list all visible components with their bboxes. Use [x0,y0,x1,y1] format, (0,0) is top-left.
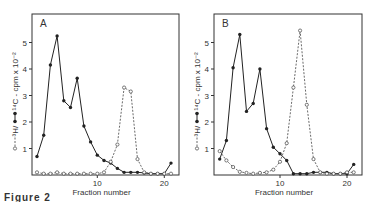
open-data-point [116,143,119,146]
x-tick-label: 20 [160,179,169,188]
figure-chart: A123451020Fraction number³H/¹⁴C - cpm x … [0,0,368,202]
filled-data-point [136,171,139,174]
y-tick-label: 3 [23,92,28,101]
open-data-point [49,172,52,175]
filled-data-point [298,172,301,175]
filled-data-point [252,102,255,105]
panel-label: B [222,18,229,29]
y-tick-label: 2 [205,118,210,127]
solid-series-line [37,36,171,174]
filled-data-point [225,139,228,142]
open-data-point [156,172,159,175]
open-data-point [218,150,221,153]
open-data-point [225,159,228,162]
y-axis-label: ³H/¹⁴C - cpm x 10⁻² [11,52,20,150]
plot-frame [214,14,362,175]
open-data-point [143,171,146,174]
open-data-point [285,142,288,145]
filled-data-point [69,106,72,109]
open-data-point [265,171,268,174]
filled-data-point [292,172,295,175]
open-data-point [89,172,92,175]
filled-data-point [169,161,172,164]
open-data-point [96,172,99,175]
open-data-point [252,172,255,175]
open-data-point [82,172,85,175]
filled-data-point [55,34,58,37]
filled-data-point [122,171,125,174]
open-data-point [292,86,295,89]
open-data-point [129,90,132,93]
open-data-point [339,172,342,175]
open-data-point [102,171,105,174]
x-axis-label: Fraction number [255,188,314,197]
y-tick-label: 5 [205,39,210,48]
panel-label: A [40,18,47,29]
open-data-point [42,172,45,175]
filled-data-point [96,153,99,156]
y-label-3h: ³H/ [193,125,202,136]
open-data-point [272,168,275,171]
panel-b: B123451020Fraction number³H/¹⁴C - cpm x … [193,14,362,197]
open-data-point [76,172,79,175]
open-data-point [319,171,322,174]
open-data-point [278,160,281,163]
open-data-point [56,171,59,174]
figure-caption: Figure 2 [4,192,51,202]
y-label-14c: ¹⁴C - cpm x 10⁻² [193,52,202,110]
filled-data-point [272,145,275,148]
x-tick-label: 10 [276,179,285,188]
filled-data-point [129,171,132,174]
filled-data-point [35,155,38,158]
y-label-3h: ³H/ [11,125,20,136]
open-data-point [232,165,235,168]
filled-data-point [49,63,52,66]
open-circle-legend-icon [13,147,16,150]
open-data-point [35,171,38,174]
filled-data-point [305,172,308,175]
filled-circle-legend-icon [195,112,199,116]
open-data-point [238,170,241,173]
x-axis-label: Fraction number [72,188,131,197]
filled-data-point [265,127,268,130]
filled-data-point [102,159,105,162]
y-tick-label: 1 [23,145,28,154]
dashed-series-line [220,31,354,174]
filled-data-point [42,134,45,137]
open-data-point [109,160,112,163]
filled-data-point [76,77,79,80]
x-tick-label: 10 [93,179,102,188]
open-data-point [62,172,65,175]
open-data-point [169,172,172,175]
y-label-14c: ¹⁴C - cpm x 10⁻² [11,52,20,110]
filled-data-point [89,140,92,143]
filled-data-point [231,66,234,69]
y-tick-label: 5 [23,39,28,48]
plot-frame [32,14,179,175]
open-data-point [136,158,139,161]
y-tick-label: 2 [23,118,28,127]
y-tick-label: 3 [205,92,210,101]
open-data-point [258,171,261,174]
open-data-point [163,172,166,175]
open-data-point [299,29,302,32]
open-data-point [332,172,335,175]
solid-series-line [220,35,354,174]
open-circle-legend-icon [195,147,198,150]
filled-data-point [285,159,288,162]
filled-data-point [116,167,119,170]
filled-data-point [352,163,355,166]
filled-data-point [218,157,221,160]
open-data-point [245,171,248,174]
panel-a: A123451020Fraction number³H/¹⁴C - cpm x … [11,14,179,197]
filled-data-point [62,99,65,102]
open-data-point [123,86,126,89]
filled-data-point [312,171,315,174]
filled-circle-legend-icon [13,112,17,116]
y-tick-label: 4 [23,65,28,74]
open-data-point [149,172,152,175]
open-data-point [305,103,308,106]
x-tick-label: 20 [343,179,352,188]
open-data-point [312,158,315,161]
filled-data-point [278,152,281,155]
